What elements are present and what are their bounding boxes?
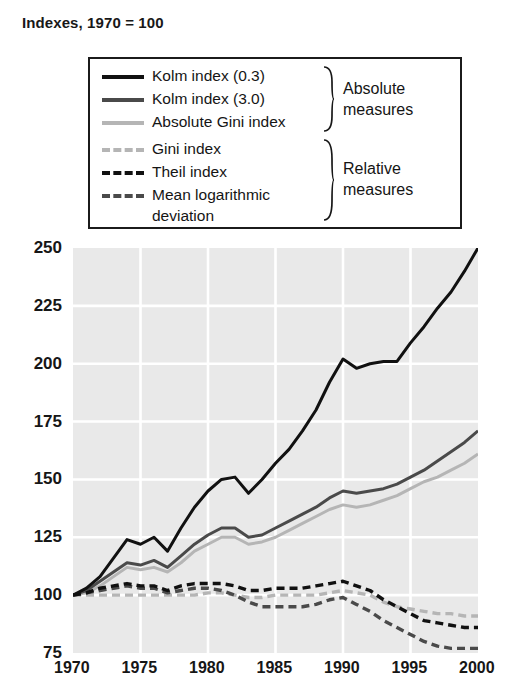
legend-group-brace (322, 138, 335, 222)
chart-figure: Indexes, 1970 = 100 25022520017515012510… (0, 0, 505, 685)
legend-group-label: Relative (343, 159, 401, 179)
legend-label: Kolm index (3.0) (152, 88, 265, 109)
legend-label: Mean logarithmic (152, 184, 270, 205)
legend-label: Gini index (152, 138, 221, 159)
legend-group-label: measures (343, 180, 413, 200)
legend-label: Theil index (152, 161, 227, 182)
legend-line-swatch-dashed (102, 184, 144, 207)
y-tick-label: 200 (0, 355, 62, 372)
plot-svg (73, 248, 478, 653)
x-tick-label: 1995 (392, 660, 428, 676)
chart-legend: Kolm index (0.3)Kolm index (3.0)Absolute… (88, 57, 462, 229)
x-tick-label: 1985 (257, 660, 293, 676)
legend-line-swatch-dashed (102, 138, 144, 161)
x-tick-label: 1990 (324, 660, 360, 676)
plot-area (73, 248, 478, 653)
legend-label-continuation: deviation (152, 205, 214, 226)
y-tick-label: 150 (0, 470, 62, 487)
y-tick-label: 75 (0, 644, 62, 661)
page-title: Indexes, 1970 = 100 (22, 14, 164, 31)
legend-item: Absolute Gini index (102, 111, 286, 134)
legend-line-swatch-solid (102, 88, 144, 111)
y-tick-label: 250 (0, 239, 62, 256)
x-tick-label: 2000 (459, 660, 495, 676)
legend-item: Kolm index (0.3) (102, 65, 265, 88)
legend-line-swatch-solid (102, 111, 144, 134)
x-tick-label: 1970 (54, 660, 90, 676)
y-tick-label: 225 (0, 297, 62, 314)
legend-item: Gini index (102, 138, 221, 161)
y-tick-label: 175 (0, 413, 62, 430)
legend-line-swatch-solid (102, 65, 144, 88)
legend-line-swatch-dashed (102, 161, 144, 184)
legend-group-label: measures (343, 100, 413, 120)
x-tick-label: 1980 (189, 660, 225, 676)
legend-inner: Kolm index (0.3)Kolm index (3.0)Absolute… (90, 59, 460, 227)
legend-item: Mean logarithmic (102, 184, 270, 207)
legend-label: Absolute Gini index (152, 111, 286, 132)
legend-group-brace (322, 65, 335, 133)
y-tick-label: 125 (0, 528, 62, 545)
y-tick-label: 100 (0, 586, 62, 603)
gridlines (73, 248, 478, 653)
x-tick-label: 1975 (122, 660, 158, 676)
legend-item: Theil index (102, 161, 227, 184)
legend-item: Kolm index (3.0) (102, 88, 265, 111)
legend-group-label: Absolute (343, 79, 405, 99)
legend-label: Kolm index (0.3) (152, 65, 265, 86)
